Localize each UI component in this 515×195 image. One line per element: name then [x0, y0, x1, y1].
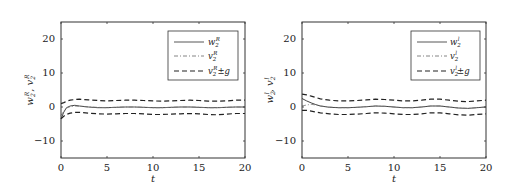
- ytick-label: −10: [34, 135, 55, 146]
- svg-text:w2l, v2l: w2l, v2l: [263, 76, 276, 103]
- ytick-label: 0: [49, 101, 55, 112]
- xtick-label: 0: [58, 162, 64, 173]
- xtick-label: 15: [434, 162, 447, 173]
- plot-right-ytick-labels: 20 10 0 −10: [275, 33, 296, 146]
- plot-left: 20 10 0 −10 0 5 10 15 20 t w2R, v2R w2R …: [23, 22, 251, 184]
- legend-entry: v2R: [208, 50, 217, 62]
- xtick-label: 10: [147, 162, 160, 173]
- ytick-label: −10: [275, 135, 296, 146]
- plot-left-legend: w2R v2R v2R±g: [168, 31, 238, 80]
- xtick-label: 20: [480, 162, 493, 173]
- plot-right-ylabel: w2l, v2l: [263, 76, 276, 103]
- legend-entry: w2R: [208, 36, 220, 48]
- plot-left-ytick-labels: 20 10 0 −10: [34, 33, 55, 146]
- plot-left-xlabel: t: [151, 173, 156, 184]
- figure: 20 10 0 −10 0 5 10 15 20 t w2R, v2R w2R …: [0, 0, 515, 195]
- plot-left-xtick-labels: 0 5 10 15 20: [58, 162, 252, 173]
- legend-entry: v2l±g: [450, 65, 470, 77]
- ytick-label: 10: [42, 67, 55, 78]
- plot-right-xtick-labels: 0 5 10 15 20: [299, 162, 493, 173]
- ytick-label: 20: [283, 33, 296, 44]
- xtick-label: 5: [345, 162, 351, 173]
- series-line: [302, 94, 486, 102]
- plot-left-ylabel: w2R, v2R: [23, 74, 36, 106]
- plot-right-curves: [302, 94, 486, 115]
- ytick-label: 0: [290, 101, 296, 112]
- xtick-label: 20: [239, 162, 252, 173]
- legend-entry: v2R±g: [208, 65, 231, 77]
- plot-right: 20 10 0 −10 0 5 10 15 20 t w2l, v2l w2l …: [263, 22, 492, 184]
- xtick-label: 5: [104, 162, 110, 173]
- ytick-label: 20: [42, 33, 55, 44]
- plot-right-xlabel: t: [392, 173, 397, 184]
- svg-text:w2R, v2R: w2R, v2R: [23, 74, 36, 106]
- series-line: [61, 112, 245, 119]
- xtick-label: 0: [299, 162, 305, 173]
- ytick-label: 10: [283, 67, 296, 78]
- series-line: [302, 110, 486, 115]
- xtick-label: 10: [388, 162, 401, 173]
- plot-right-legend: w2l v2l v2l±g: [411, 31, 480, 80]
- xtick-label: 15: [193, 162, 206, 173]
- series-line: [61, 99, 245, 103]
- plot-left-curves: [61, 99, 245, 119]
